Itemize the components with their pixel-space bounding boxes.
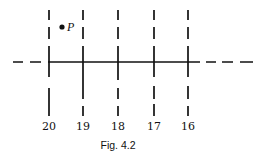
- figure-diagram: P 2019181716 Fig. 4.2: [0, 0, 265, 159]
- line-label-16: 16: [181, 120, 195, 133]
- figure-caption: Fig. 4.2: [100, 139, 135, 151]
- line-label-19: 19: [76, 120, 90, 133]
- point-p-label: P: [66, 20, 75, 34]
- line-label-20: 20: [42, 120, 56, 133]
- line-label-18: 18: [111, 120, 125, 133]
- line-labels: 2019181716: [42, 120, 195, 133]
- point-p-dot: [59, 24, 64, 29]
- line-label-17: 17: [147, 120, 161, 133]
